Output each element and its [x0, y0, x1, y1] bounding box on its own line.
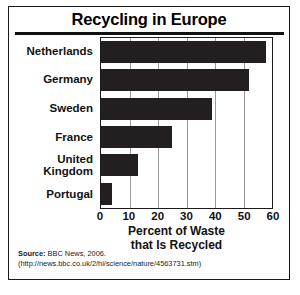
bar-germany	[101, 69, 249, 91]
x-tick-10: 10	[122, 210, 135, 222]
bar-row	[101, 126, 272, 148]
x-axis-title: Percent of Wastethat Is Recycled	[69, 225, 284, 252]
category-label-netherlands: Netherlands	[9, 40, 98, 62]
bar-sweden	[101, 98, 212, 120]
category-label-portugal: Portugal	[9, 184, 98, 206]
source-label: Source:	[18, 249, 46, 258]
page-title: Recycling in Europe	[9, 9, 289, 29]
title-block: Recycling in Europe	[9, 9, 289, 29]
x-tick-0: 0	[97, 210, 103, 222]
bar-row	[101, 98, 272, 120]
x-axis-title-line: Percent of Waste	[69, 225, 284, 239]
bar-united-kingdom	[101, 154, 138, 176]
x-tick-20: 20	[151, 210, 164, 222]
category-label-germany: Germany	[9, 69, 98, 91]
source-url: (http://news.bbc.co.uk/2/hi/science/natu…	[18, 259, 201, 268]
source-note: Source: BBC News, 2006. (http://news.bbc…	[18, 249, 283, 268]
category-label-sweden: Sweden	[9, 98, 98, 120]
bar-portugal	[101, 183, 112, 205]
x-tick-60: 60	[267, 210, 280, 222]
bar-france	[101, 126, 172, 148]
x-tick-40: 40	[209, 210, 222, 222]
category-label-united-kingdom: UnitedKingdom	[9, 155, 98, 177]
x-tick-50: 50	[238, 210, 251, 222]
source-text: BBC News, 2006.	[48, 249, 106, 258]
title-divider	[15, 32, 284, 35]
x-tick-30: 30	[180, 210, 193, 222]
category-axis-labels: NetherlandsGermanySwedenFranceUnitedKing…	[9, 37, 98, 209]
x-axis-tick-labels: 0102030405060	[100, 210, 273, 225]
plot-area	[100, 37, 273, 209]
bar-row	[101, 41, 272, 63]
figure-container: Recycling in Europe NetherlandsGermanySw…	[8, 6, 290, 280]
bar-row	[101, 183, 272, 205]
bar-series	[101, 38, 272, 208]
bar-row	[101, 154, 272, 176]
category-label-france: France	[9, 126, 98, 148]
bar-row	[101, 69, 272, 91]
bar-netherlands	[101, 41, 266, 63]
